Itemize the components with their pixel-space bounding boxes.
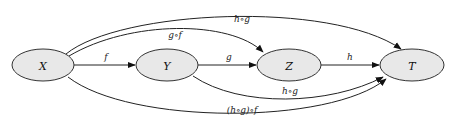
node-y: Y [136,49,198,81]
edges: h∘g g∘f f g h h∘g (h∘g)∘f [66,14,401,115]
edge-label-hg-compose-f: (h∘g)∘f [227,105,259,115]
edge-label-g: g [226,52,232,62]
node-label-z: Z [284,60,293,73]
node-t: T [380,49,444,81]
edge-label-f: f [103,52,109,62]
composition-diagram: h∘g g∘f f g h h∘g (h∘g)∘f X Y Z [0,0,455,127]
edge-label-h-compose-g: h∘g [282,86,298,96]
node-label-x: X [38,60,48,73]
node-z: Z [257,49,321,81]
edge-label-h: h [347,52,353,62]
edge-label-h-compose-g-f: h∘g [234,14,250,24]
node-x: X [12,49,74,81]
edge-label-g-compose-f: g∘f [168,30,183,40]
